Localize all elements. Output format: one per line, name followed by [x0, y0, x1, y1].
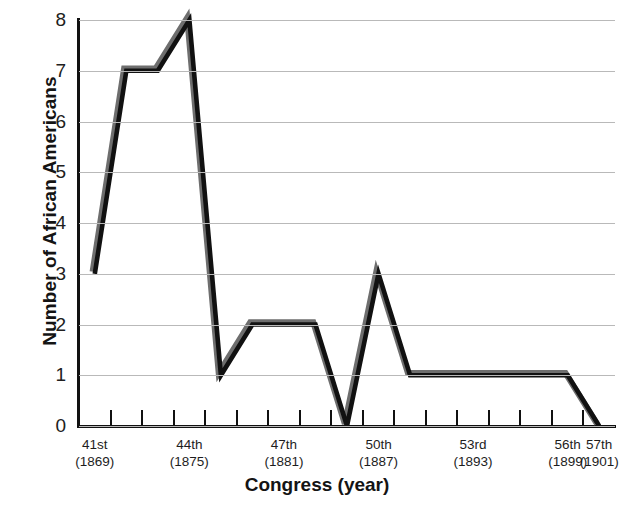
x-tick-congress: 47th — [271, 437, 297, 452]
x-axis-tick-mark — [299, 410, 301, 425]
x-axis-tick-mark — [393, 410, 395, 425]
x-axis-tick-mark — [204, 410, 206, 425]
x-axis-tick-mark — [362, 410, 364, 425]
x-tick-congress: 50th — [365, 437, 391, 452]
x-tick-year: (1887) — [339, 454, 419, 471]
y-axis-tick-label: 1 — [40, 365, 66, 384]
y-axis-tick-label: 5 — [40, 162, 66, 181]
gridline — [79, 426, 615, 427]
y-axis-tick-label: 4 — [40, 213, 66, 232]
gridline — [79, 172, 615, 173]
x-axis-tick-label: 50th(1887) — [339, 437, 419, 471]
x-axis-tick-label: 57th(1901) — [559, 437, 634, 471]
y-axis-tick-label: 0 — [40, 416, 66, 435]
gridline — [79, 325, 615, 326]
x-axis-tick-mark — [488, 410, 490, 425]
x-axis-tick-mark — [141, 410, 143, 425]
gridline — [79, 71, 615, 72]
gridline — [79, 375, 615, 376]
y-axis-tick-label: 7 — [40, 61, 66, 80]
x-tick-year: (1893) — [433, 454, 513, 471]
x-axis-tick-mark — [110, 410, 112, 425]
x-axis-tick-mark — [551, 410, 553, 425]
gridline — [79, 122, 615, 123]
y-axis-tick-label: 3 — [40, 264, 66, 283]
x-axis-tick-label: 44th(1875) — [149, 437, 229, 471]
x-axis-tick-mark — [582, 410, 584, 425]
x-axis-tick-mark — [425, 410, 427, 425]
y-axis-tick-label: 6 — [40, 112, 66, 131]
x-tick-year: (1881) — [244, 454, 324, 471]
x-axis-title: Congress (year) — [0, 474, 634, 496]
x-axis-tick-label: 47th(1881) — [244, 437, 324, 471]
x-axis-tick-mark — [173, 410, 175, 425]
x-tick-year: (1875) — [149, 454, 229, 471]
x-tick-year: (1869) — [55, 454, 135, 471]
x-axis-tick-mark — [456, 410, 458, 425]
x-axis-tick-mark — [519, 410, 521, 425]
x-axis-tick-mark — [267, 410, 269, 425]
y-axis-tick-label: 2 — [40, 315, 66, 334]
x-axis-tick-label: 41st(1869) — [55, 437, 135, 471]
x-tick-congress: 41st — [82, 437, 108, 452]
plot-area — [79, 20, 615, 426]
x-tick-year: (1901) — [559, 454, 634, 471]
x-axis-tick-mark — [236, 410, 238, 425]
line-shadow — [93, 18, 597, 424]
x-axis-tick-label: 53rd(1893) — [433, 437, 513, 471]
gridline — [79, 20, 615, 21]
y-axis-tick-labels: 012345678 — [30, 0, 66, 508]
x-axis-tick-mark — [330, 410, 332, 425]
x-tick-congress: 44th — [176, 437, 202, 452]
gridline — [79, 223, 615, 224]
x-tick-congress: 57th — [586, 437, 612, 452]
x-tick-congress: 53rd — [460, 437, 487, 452]
y-axis-tick-label: 8 — [40, 10, 66, 29]
chart-container: Number of African Americans 012345678 41… — [0, 0, 634, 508]
gridline — [79, 274, 615, 275]
